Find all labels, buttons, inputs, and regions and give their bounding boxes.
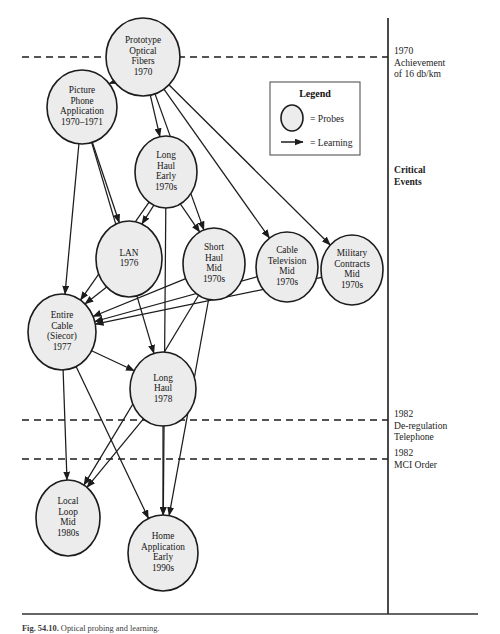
node-label-line: Short	[204, 242, 225, 252]
node-label-line: Television	[268, 256, 307, 266]
node-label-line: Phone	[70, 96, 93, 106]
node-label-line: Optical	[129, 46, 157, 56]
node-prototype-optical-fibers[interactable]: PrototypeOpticalFibers1970	[106, 18, 180, 96]
node-military-contracts-mid-1970s[interactable]: MilitaryContractsMid1970s	[321, 235, 383, 305]
figure-canvas: PrototypeOpticalFibers1970PicturePhoneAp…	[0, 0, 500, 634]
edge-long-haul-early-1970s-to-lan-1976	[142, 205, 154, 224]
node-label-line: Cable	[51, 321, 73, 331]
node-label-line: 1970	[134, 67, 153, 77]
edge-entire-cable-siecor-1977-to-long-haul-1978	[92, 351, 135, 371]
node-label-line: Entire	[51, 310, 74, 320]
node-lan-1976[interactable]: LAN1976	[96, 221, 162, 297]
node-label-line: Fibers	[131, 56, 155, 66]
node-home-application-early-1990s[interactable]: HomeApplicationEarly1990s	[128, 515, 198, 591]
node-label-line: Early	[156, 171, 176, 181]
event-annotation-1982-deregulation: 1982 De-regulation Telephone	[394, 408, 447, 443]
node-label-line: 1977	[53, 342, 72, 352]
probe-learning-diagram: PrototypeOpticalFibers1970PicturePhoneAp…	[0, 0, 500, 634]
node-label-line: Early	[153, 552, 173, 562]
node-label-line: Local	[57, 496, 79, 506]
node-label-line: 1976	[120, 258, 139, 268]
node-label-line: Loop	[58, 507, 78, 517]
node-label-line: Mid	[344, 269, 360, 279]
legend-learning-label: = Learning	[310, 137, 353, 148]
event-annotation-1982-mci: 1982 MCI Order	[394, 447, 437, 470]
caption-label: Fig. 54.10.	[22, 624, 59, 633]
node-label-line: Cable	[276, 245, 298, 255]
node-entire-cable-siecor-1977[interactable]: EntireCable(Siecor)1977	[28, 294, 96, 370]
node-label-line: Picture	[69, 85, 95, 95]
legend-title: Legend	[299, 88, 331, 99]
node-label-line: 1980s	[57, 528, 80, 538]
node-label-line: Mid	[206, 263, 222, 273]
edge-picture-phone-application-to-lan-1976	[92, 142, 119, 222]
node-label-line: Mid	[60, 517, 76, 527]
node-short-haul-mid-1970s[interactable]: ShortHaulMid1970s	[183, 228, 245, 300]
node-label-line: 1990s	[152, 563, 175, 573]
node-long-haul-early-1970s[interactable]: LongHaulEarly1970s	[135, 136, 197, 208]
axis-title: Critical Events	[394, 164, 425, 187]
edge-prototype-optical-fibers-to-long-haul-early-1970s	[150, 95, 160, 137]
node-label-line: LAN	[119, 248, 138, 258]
node-long-haul-1978[interactable]: LongHaul1978	[130, 352, 196, 426]
event-annotation-1970: 1970 Achievement of 16 db/km	[394, 45, 445, 80]
node-label-line: Long	[153, 373, 173, 383]
node-label-line: Haul	[205, 253, 223, 263]
node-label-line: 1970s	[203, 274, 226, 284]
node-label-line: Home	[152, 531, 175, 541]
node-label-line: Long	[156, 150, 176, 160]
node-label-line: Application	[141, 542, 185, 552]
edge-long-haul-early-1970s-to-short-haul-mid-1970s	[180, 204, 199, 232]
node-label-line: 1970s	[155, 182, 178, 192]
ellipse-icon	[281, 105, 303, 131]
node-picture-phone-application[interactable]: PicturePhoneApplication1970–1971	[47, 70, 117, 144]
node-label-line: Haul	[157, 161, 175, 171]
edge-long-haul-1978-to-local-loop-mid-1980s	[87, 419, 143, 488]
node-label-line: 1970–1971	[61, 117, 103, 127]
node-label-line: Application	[60, 106, 104, 116]
node-local-loop-mid-1980s[interactable]: LocalLoopMid1980s	[36, 480, 100, 556]
node-label-line: 1970s	[341, 280, 364, 290]
caption-text: Optical probing and learning.	[61, 624, 160, 633]
node-label-line: Mid	[279, 266, 295, 276]
legend-probes-label: = Probes	[310, 113, 344, 124]
node-label-line: Contracts	[334, 259, 370, 269]
node-label-line: 1978	[154, 394, 173, 404]
node-label-line: Prototype	[125, 35, 161, 45]
legend: Legend = Probes = Learning	[270, 82, 360, 155]
edge-picture-phone-application-to-entire-cable-siecor-1977	[65, 144, 79, 294]
node-label-line: Haul	[154, 383, 172, 393]
node-label-line: Military	[337, 248, 368, 258]
node-label-line: 1970s	[276, 277, 299, 287]
node-label-line: (Siecor)	[47, 331, 77, 342]
node-cable-television-mid-1970s[interactable]: CableTelevisionMid1970s	[256, 232, 318, 302]
edge-entire-cable-siecor-1977-to-local-loop-mid-1980s	[63, 370, 67, 480]
figure-caption: Fig. 54.10. Optical probing and learning…	[22, 624, 442, 634]
